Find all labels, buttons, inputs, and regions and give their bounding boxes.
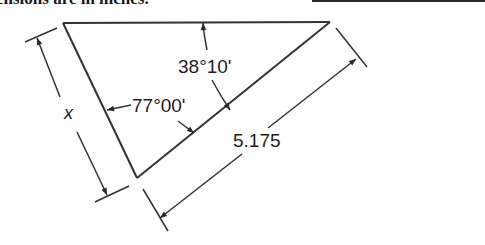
triangle-diagram: x 5.175 38°10' 77°00' [0, 0, 485, 245]
x-dim-arrow-down [77, 132, 107, 195]
extension-line-bottom [95, 186, 129, 202]
left-edge [63, 23, 137, 178]
angle-top-label: 38°10' [178, 56, 232, 77]
triangle-outline [63, 22, 330, 178]
extension-line-bottom-right [143, 189, 168, 231]
angle-left-arrow-left [107, 105, 131, 110]
hyp-dim-arrow-down [160, 154, 242, 218]
extension-line-right [336, 28, 367, 67]
extension-line-top [25, 28, 57, 42]
x-label: x [63, 103, 74, 123]
x-dim-arrow-up [37, 38, 60, 97]
angle-left-label: 77°00' [132, 95, 186, 116]
hypotenuse-length-label: 5.175 [233, 130, 281, 151]
angle-left-arrow-right [178, 121, 194, 133]
angle-top-arrow-up [203, 23, 207, 50]
top-edge [63, 22, 330, 23]
hyp-dim-arrow-up [268, 59, 356, 128]
angle-top-arrow-down [212, 80, 230, 110]
